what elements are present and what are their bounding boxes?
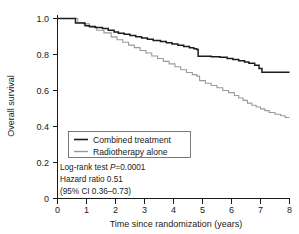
x-axis-title: Time since randomization (years)	[110, 219, 243, 229]
x-tick-label-6: 6	[229, 205, 234, 215]
y-axis-tick-labels: 1.0 0.8 0.6 0.4 0.2 0	[36, 14, 49, 204]
y-tick-label-0.2: 0.2	[36, 158, 49, 168]
x-tick-label-4: 4	[171, 205, 176, 215]
confidence-interval-annotation: (95% CI 0.36–0.73)	[60, 187, 131, 196]
logrank-test-annotation: Log-rank test P=0.0001	[60, 163, 146, 172]
y-tick-label-0: 0	[44, 194, 49, 204]
x-tick-label-7: 7	[258, 205, 263, 215]
statistics-annotations: Log-rank test P=0.0001 Hazard ratio 0.51…	[60, 163, 146, 196]
x-tick-label-8: 8	[287, 205, 292, 215]
hazard-ratio-annotation: Hazard ratio 0.51	[60, 175, 123, 184]
y-tick-label-0.4: 0.4	[36, 122, 49, 132]
y-axis-ticks	[53, 19, 58, 199]
y-tick-label-0.8: 0.8	[36, 50, 49, 60]
y-axis-title: Overall survival	[6, 75, 16, 137]
x-tick-label-2: 2	[113, 205, 118, 215]
chart-svg: 1.0 0.8 0.6 0.4 0.2 0 0 1 2 3 4 5 6	[0, 0, 299, 234]
legend-label-radiotherapy-alone: Radiotherapy alone	[93, 147, 168, 157]
x-tick-label-3: 3	[142, 205, 147, 215]
survival-curve-radiotherapy-alone	[58, 19, 290, 118]
kaplan-meier-survival-chart: 1.0 0.8 0.6 0.4 0.2 0 0 1 2 3 4 5 6	[0, 0, 299, 234]
x-tick-label-5: 5	[200, 205, 205, 215]
x-tick-label-0: 0	[55, 205, 60, 215]
legend-label-combined-treatment: Combined treatment	[93, 135, 171, 145]
y-tick-label-1.0: 1.0	[36, 14, 49, 24]
x-tick-label-1: 1	[84, 205, 89, 215]
x-axis-tick-labels: 0 1 2 3 4 5 6 7 8	[55, 205, 292, 215]
x-axis-ticks	[58, 199, 290, 204]
y-tick-label-0.6: 0.6	[36, 86, 49, 96]
chart-legend: Combined treatment Radiotherapy alone	[69, 132, 191, 158]
